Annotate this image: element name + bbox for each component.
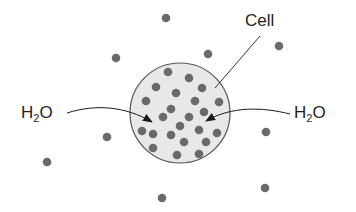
solute-particle-inside bbox=[202, 138, 211, 147]
solute-particle-outside bbox=[112, 54, 121, 63]
left-water-o: O bbox=[39, 103, 52, 122]
solute-particle-inside bbox=[138, 127, 147, 136]
cell-leader-line bbox=[215, 36, 260, 88]
solute-particle-outside bbox=[204, 50, 213, 59]
solute-particle-outside bbox=[261, 184, 270, 193]
solute-particle-inside bbox=[198, 84, 207, 93]
solute-particle-inside bbox=[167, 131, 176, 140]
solute-particle-inside bbox=[180, 138, 189, 147]
solute-particle-outside bbox=[262, 128, 271, 137]
right-water-h: H bbox=[294, 103, 306, 122]
right-water-label: H2O bbox=[294, 104, 326, 121]
solute-particle-inside bbox=[173, 151, 182, 160]
solute-particle-inside bbox=[164, 68, 173, 77]
solute-particle-outside bbox=[162, 14, 171, 23]
left-water-h: H bbox=[21, 103, 33, 122]
solute-particle-inside bbox=[172, 89, 181, 98]
solute-particle-inside bbox=[149, 130, 158, 139]
solute-particle-inside bbox=[213, 129, 222, 138]
solute-particle-inside bbox=[185, 74, 194, 83]
solute-particle-outside bbox=[43, 158, 52, 167]
cell-label: Cell bbox=[245, 12, 274, 29]
solute-particle-inside bbox=[176, 122, 185, 131]
solute-particle-inside bbox=[191, 97, 200, 106]
left-water-label: H2O bbox=[21, 104, 53, 121]
solute-particle-inside bbox=[152, 83, 161, 92]
solute-particle-outside bbox=[103, 133, 112, 142]
solute-particle-outside bbox=[158, 194, 167, 203]
solute-particle-inside bbox=[215, 98, 224, 107]
solute-particle-inside bbox=[195, 126, 204, 135]
solute-particle-inside bbox=[185, 113, 194, 122]
solute-particle-inside bbox=[142, 97, 151, 106]
solute-particle-inside bbox=[159, 113, 168, 122]
osmosis-diagram: Cell H2O H2O bbox=[0, 0, 356, 212]
solute-particle-inside bbox=[200, 108, 209, 117]
right-water-o: O bbox=[312, 103, 325, 122]
solute-particle-inside bbox=[167, 105, 176, 114]
solute-particle-inside bbox=[149, 144, 158, 153]
solute-particle-outside bbox=[275, 42, 284, 51]
cell-membrane bbox=[130, 63, 230, 163]
solute-particle-inside bbox=[195, 150, 204, 159]
